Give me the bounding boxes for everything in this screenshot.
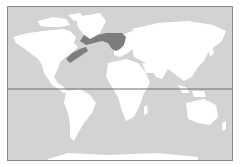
south-america xyxy=(64,89,96,141)
world-map-frame xyxy=(7,6,233,161)
australia xyxy=(186,99,218,125)
antarctica xyxy=(48,153,198,161)
arctic-islands xyxy=(38,17,70,27)
africa xyxy=(106,59,150,121)
world-map xyxy=(8,7,233,161)
